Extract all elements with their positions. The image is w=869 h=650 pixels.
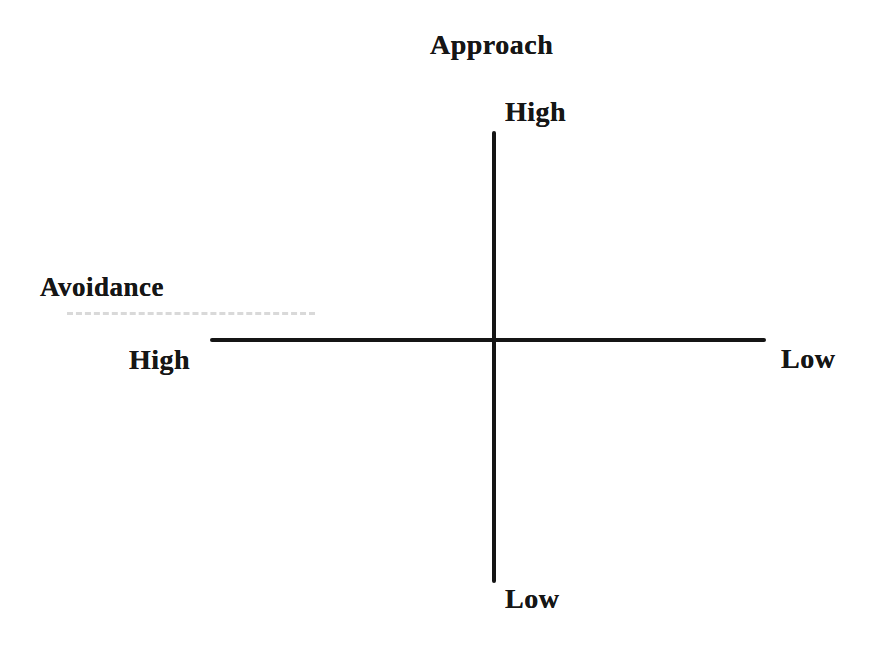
- quadrant-diagram: Approach High Low Avoidance High Low: [0, 0, 869, 650]
- horizontal-axis-line: [210, 338, 766, 342]
- scan-artifact-line: [67, 312, 315, 315]
- vertical-axis-title: Approach: [430, 31, 553, 59]
- horizontal-axis-title: Avoidance: [40, 274, 164, 301]
- horizontal-axis-low-label: Low: [781, 345, 835, 373]
- horizontal-axis-high-label: High: [129, 346, 190, 374]
- vertical-axis-high-label: High: [505, 98, 566, 126]
- vertical-axis-low-label: Low: [505, 585, 559, 613]
- vertical-axis-line: [492, 131, 496, 583]
